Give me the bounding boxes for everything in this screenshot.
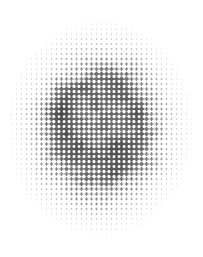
artwork-stage: Halftone Plus-Mark Dot Field Circular ha… <box>0 0 203 257</box>
halftone-pattern-canvas <box>0 0 203 257</box>
